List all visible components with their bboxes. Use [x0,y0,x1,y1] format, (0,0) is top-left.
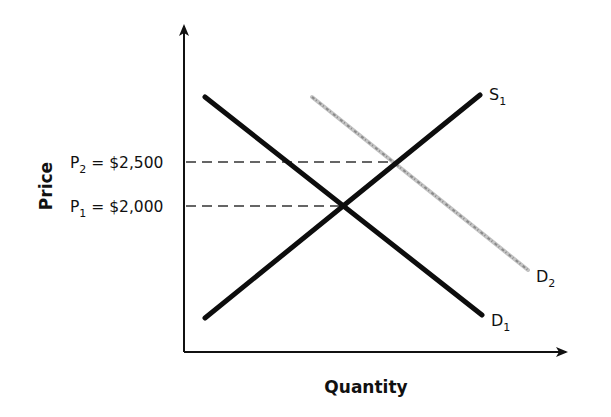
p1-tick-label: P1 = $2,000 [70,198,163,220]
d1-label: D1 [491,311,510,334]
d2-demand-curve [312,97,528,270]
p2-tick-label: P2 = $2,500 [70,154,163,176]
d2-label: D2 [536,267,555,290]
y-axis-title: Price [36,162,56,210]
supply-demand-chart: S1 D2 D1 P2 = $2,500 P1 = $2,000 Price Q… [0,0,611,417]
x-axis-title: Quantity [324,377,407,397]
s1-label: S1 [489,85,506,108]
